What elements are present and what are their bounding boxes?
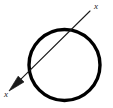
axis-label-lower-left: x bbox=[3, 89, 8, 99]
figure-canvas: x x bbox=[0, 0, 113, 108]
circle-axis-diagram: x x bbox=[0, 0, 113, 108]
axis-label-upper-right: x bbox=[93, 1, 98, 11]
diagram-background bbox=[0, 0, 113, 108]
